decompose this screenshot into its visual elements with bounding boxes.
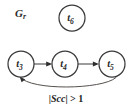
node-t4[interactable]: t4	[52, 51, 78, 77]
node-t3[interactable]: t3	[8, 51, 34, 77]
node-t6-subscript: 6	[70, 16, 74, 25]
graph-name-subscript: r	[23, 12, 27, 21]
edge-t5-to-t3-arc	[23, 76, 118, 87]
edge-t3-to-t4	[34, 61, 52, 66]
graph-canvas: Gr t6 t3	[0, 0, 135, 110]
node-t5-subscript: 5	[110, 62, 114, 71]
node-t4-subscript: 4	[62, 62, 67, 71]
edge-t3-to-t4-arrowhead	[46, 61, 52, 66]
edge-t4-to-t5	[78, 61, 99, 66]
node-t3-subscript: 3	[18, 62, 23, 71]
graph-name-label: Gr	[15, 7, 27, 21]
edge-t5-to-t3-label: |Scc| > 1	[49, 93, 84, 104]
arc-label-relation: > 1	[68, 93, 84, 104]
node-t6[interactable]: t6	[59, 5, 85, 31]
edge-t5-to-t3	[20, 76, 118, 87]
arc-label-term: Scc	[51, 93, 66, 104]
node-t5[interactable]: t5	[99, 51, 125, 77]
graph-name-base: G	[15, 7, 23, 19]
edge-t4-to-t5-arrowhead	[93, 61, 99, 66]
graph-figure: Gr t6 t3	[0, 0, 135, 110]
